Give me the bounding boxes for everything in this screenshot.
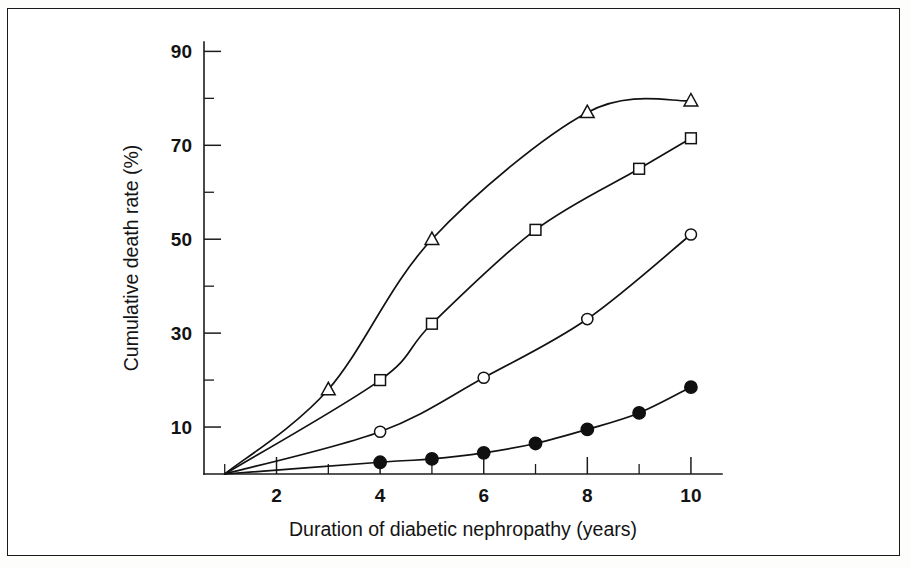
y-tick-label: 90 bbox=[171, 41, 192, 62]
y-tick-label: 50 bbox=[171, 229, 192, 250]
data-point-open-square bbox=[427, 318, 438, 329]
data-point-filled-circle bbox=[685, 381, 697, 393]
chart-canvas: 1030507090 246810 Cumulative death rate … bbox=[8, 9, 898, 554]
series-line-open-triangle bbox=[225, 99, 691, 474]
x-axis-tick-labels: 246810 bbox=[271, 485, 701, 506]
series-line-filled-circle bbox=[225, 387, 691, 474]
data-point-open-circle bbox=[375, 426, 386, 437]
x-tick-label: 4 bbox=[375, 485, 386, 506]
y-tick-label: 70 bbox=[171, 135, 192, 156]
data-point-open-square bbox=[634, 163, 645, 174]
x-tick-label: 6 bbox=[478, 485, 489, 506]
data-point-open-square bbox=[686, 133, 697, 144]
x-axis-ticks bbox=[225, 457, 691, 474]
y-tick-label: 30 bbox=[171, 323, 192, 344]
data-point-open-square bbox=[375, 375, 386, 386]
data-point-open-circle bbox=[478, 372, 489, 383]
data-point-open-square bbox=[530, 224, 541, 235]
y-axis-ticks bbox=[204, 51, 221, 427]
x-tick-label: 10 bbox=[680, 485, 701, 506]
y-axis-title: Cumulative death rate (%) bbox=[120, 145, 142, 372]
data-point-filled-circle bbox=[581, 423, 593, 435]
x-tick-label: 2 bbox=[271, 485, 282, 506]
figure-root: 1030507090 246810 Cumulative death rate … bbox=[0, 0, 911, 568]
data-point-filled-circle bbox=[426, 453, 438, 465]
series-open-square bbox=[225, 133, 697, 474]
data-point-open-triangle bbox=[580, 105, 594, 117]
data-series-group bbox=[225, 93, 698, 474]
figure-border-frame: 1030507090 246810 Cumulative death rate … bbox=[7, 8, 900, 556]
data-point-filled-circle bbox=[374, 456, 386, 468]
data-point-open-triangle bbox=[684, 93, 698, 105]
x-axis-title: Duration of diabetic nephropathy (years) bbox=[289, 518, 637, 540]
data-point-filled-circle bbox=[478, 447, 490, 459]
series-line-open-square bbox=[225, 138, 691, 474]
data-point-open-circle bbox=[582, 313, 593, 324]
y-tick-label: 10 bbox=[171, 417, 192, 438]
data-point-filled-circle bbox=[529, 437, 541, 449]
series-filled-circle bbox=[225, 381, 697, 474]
series-line-open-circle bbox=[225, 235, 691, 474]
series-open-circle bbox=[225, 229, 697, 474]
data-point-filled-circle bbox=[633, 407, 645, 419]
x-tick-label: 8 bbox=[582, 485, 593, 506]
y-axis-tick-labels: 1030507090 bbox=[171, 41, 192, 438]
data-point-open-circle bbox=[685, 229, 696, 240]
